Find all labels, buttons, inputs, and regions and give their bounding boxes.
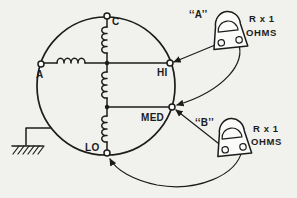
terminal-lo [104, 150, 110, 156]
terminal-label-c: C [112, 16, 120, 27]
terminal-label-a: A [36, 69, 44, 80]
terminal-label-med: MED [141, 112, 164, 123]
ohmmeter-b-unit-label: OHMS [251, 136, 282, 147]
ohmmeter-a-range-label: R x 1 [249, 13, 275, 24]
terminal-label-hi: HI [157, 67, 168, 78]
ohmmeter-b-terminal [222, 146, 229, 153]
coil-med-to-lo-tap [102, 116, 107, 142]
meter-b-lead-to-med [176, 110, 223, 147]
stator-circle [37, 17, 175, 155]
terminal-label-lo: LO [85, 142, 100, 153]
meter-a-lead-to-hi [174, 43, 220, 62]
ohmmeter-b-terminal [239, 143, 246, 150]
terminal-hi [167, 60, 173, 66]
ohmmeter-b-name-label: ‘‘B’’ [195, 117, 214, 128]
terminal-a [38, 61, 44, 67]
coil-a-phase [57, 58, 85, 63]
ohmmeter-a-terminal [218, 39, 225, 46]
ohmmeter-a-name-label: ‘‘A’’ [189, 9, 208, 20]
coil-hi-to-med-tap [102, 72, 107, 98]
terminal-c [104, 13, 110, 19]
ohmmeter-a [210, 10, 248, 50]
ground-icon [12, 146, 44, 154]
scanned-diagram-page: C A HI MED LO ‘‘A’’ R x 1 OHMS ‘‘B’’ R x… [0, 0, 297, 198]
ohmmeter-a-unit-label: OHMS [246, 27, 277, 38]
wiring-diagram: C A HI MED LO ‘‘A’’ R x 1 OHMS ‘‘B’’ R x… [0, 0, 297, 198]
terminal-med [169, 104, 175, 110]
junction-dot [105, 61, 109, 65]
ground-wire [26, 128, 51, 145]
ohmmeter-b [214, 117, 252, 157]
ohmmeter-b-range-label: R x 1 [253, 123, 279, 134]
junction-dot [105, 105, 109, 109]
meter-a-lead-to-med [177, 43, 240, 105]
ohmmeter-a-terminal [236, 36, 243, 43]
coil-c-to-hi-tap [102, 27, 107, 53]
